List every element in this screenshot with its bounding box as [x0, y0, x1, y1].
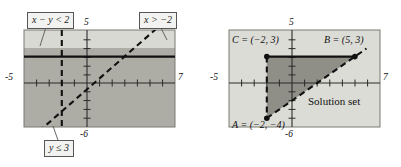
right-axis-label-y-max: 5	[289, 18, 294, 28]
right-axis-label-x-max: 7	[383, 73, 388, 83]
solution-set-region-label: Solution set	[308, 96, 360, 107]
vertex-dot-b	[352, 54, 358, 60]
callout-x-gt-neg-2-text: x > −2	[144, 14, 172, 25]
callout-x-gt-neg-2: x > −2	[139, 12, 177, 29]
callout-y-le-3-text: y ≤ 3	[49, 142, 69, 153]
right-panel-plot	[200, 0, 401, 167]
left-axis-label-x-max: 7	[178, 73, 183, 83]
right-panel-solution-set: C = (−2, 3) B = (5, 3) A = (−2, −4) Solu…	[200, 0, 401, 167]
left-shaded-region-y-le-3	[24, 48, 175, 127]
callout-x-minus-y-lt-2: x − y < 2	[27, 12, 74, 29]
vertex-label-c: C = (−2, 3)	[232, 35, 279, 45]
left-axis-label-y-min: -6	[80, 130, 88, 140]
vertex-label-b: B = (5, 3)	[324, 35, 364, 45]
right-axis-label-x-min: -5	[210, 73, 218, 83]
left-panel-system-of-inequalities: x − y < 2 x > −2 y ≤ 3 -5 7 5 -6	[0, 0, 200, 167]
vertex-dot-c	[264, 54, 270, 60]
left-axis-label-y-max: 5	[84, 18, 89, 28]
callout-y-le-3: y ≤ 3	[44, 140, 74, 157]
vertex-label-a: A = (−2, −4)	[232, 120, 285, 130]
figure-root: x − y < 2 x > −2 y ≤ 3 -5 7 5 -6	[0, 0, 401, 167]
right-axis-label-y-min: -6	[285, 130, 293, 140]
left-axis-label-x-min: -5	[5, 73, 13, 83]
callout-x-minus-y-lt-2-text: x − y < 2	[32, 14, 69, 25]
